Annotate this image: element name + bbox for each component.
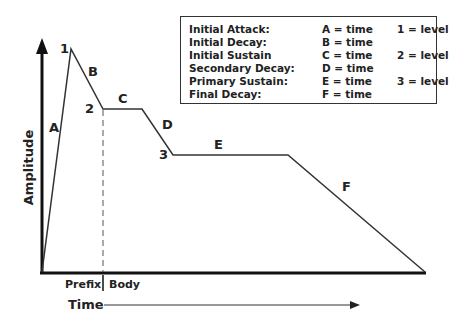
legend-name: Initial Decay: <box>189 36 267 48</box>
legend-name: Secondary Decay: <box>189 62 295 74</box>
legend-box: Initial Attack: A = time 1 = level Initi… <box>180 16 437 104</box>
time-arrow-icon <box>350 301 360 309</box>
x-axis-label: Time <box>68 297 104 312</box>
legend-row: Initial Sustain C = time 2 = level <box>189 49 271 62</box>
point-label-1: 1 <box>60 41 69 56</box>
x-section-body: Body <box>109 278 140 291</box>
legend-name: Final Decay: <box>189 88 261 100</box>
segment-label-c: C <box>118 91 128 106</box>
legend-time: B = time <box>322 36 373 49</box>
y-axis-label: Amplitude <box>21 128 36 208</box>
legend-name: Primary Sustain: <box>189 75 288 87</box>
segment-label-e: E <box>214 137 223 152</box>
legend-row: Secondary Decay: D = time <box>189 62 295 75</box>
legend-name: Initial Attack: <box>189 23 270 35</box>
y-axis-arrow-icon <box>36 38 48 54</box>
legend-row: Final Decay: F = time <box>189 88 261 101</box>
legend-level: 1 = level <box>397 23 449 36</box>
legend-row: Initial Attack: A = time 1 = level <box>189 23 270 36</box>
point-label-3: 3 <box>159 147 168 162</box>
legend-row: Primary Sustain: E = time 3 = level <box>189 75 288 88</box>
x-section-prefix: Prefix <box>65 278 101 291</box>
point-label-2: 2 <box>85 101 94 116</box>
legend-time: D = time <box>322 62 374 75</box>
legend-level: 3 = level <box>397 75 449 88</box>
legend-level: 2 = level <box>397 49 449 62</box>
legend-time: C = time <box>322 49 373 62</box>
segment-label-b: B <box>88 64 98 79</box>
legend-time: E = time <box>322 75 372 88</box>
segment-label-f: F <box>342 179 351 194</box>
legend-time: A = time <box>322 23 373 36</box>
legend-time: F = time <box>322 88 372 101</box>
segment-label-d: D <box>162 117 173 132</box>
legend-name: Initial Sustain <box>189 49 271 61</box>
legend-row: Initial Decay: B = time <box>189 36 267 49</box>
segment-label-a: A <box>49 120 59 135</box>
